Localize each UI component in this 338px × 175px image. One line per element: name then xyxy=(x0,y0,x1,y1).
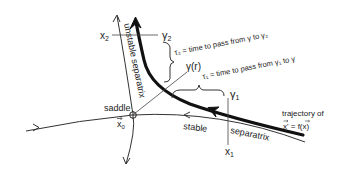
stable-label: stable xyxy=(183,121,208,134)
svg-text:x' = f(x): x' = f(x) xyxy=(283,122,310,131)
gamma1-label: γ1 xyxy=(230,88,240,101)
x1-label: x1 xyxy=(225,146,234,158)
svg-text:x0: x0 xyxy=(117,119,126,130)
unstable-top-arrow-icon xyxy=(113,15,120,22)
tau2-brace xyxy=(163,42,174,82)
x0-label: x0 xyxy=(117,117,126,130)
stable-left-arrow-icon xyxy=(33,124,39,131)
x2-label: x2 xyxy=(100,30,109,42)
saddle-separatrix-diagram: x2 γ2 γ1 x1 γ(r) τ₂ = time to pass from … xyxy=(0,0,338,175)
tau2-annotation: τ₂ = time to pass from γ to γ₂ xyxy=(174,30,269,57)
trajectory-equation: x' = f(x) xyxy=(283,120,310,131)
gamma2-label: γ2 xyxy=(162,29,172,42)
tau1-annotation: τ₁ = time to pass from γ₁ to γ xyxy=(202,54,296,81)
separatrix-label: separatrix xyxy=(230,125,271,142)
saddle-label: saddle xyxy=(104,103,131,113)
tau1-brace xyxy=(172,85,224,98)
gamma-r-label: γ(r) xyxy=(186,61,201,72)
trajectory-label-line1: trajectory of xyxy=(282,109,325,118)
